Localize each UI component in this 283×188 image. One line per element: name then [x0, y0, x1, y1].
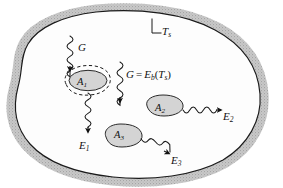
body-a2-label: A2: [155, 103, 165, 115]
a1-shape: [69, 70, 107, 90]
body-a3-label: A3: [114, 130, 124, 142]
incident-irradiation-label-left: G: [78, 42, 86, 53]
body-a1: [69, 70, 107, 90]
enclosure-boundary: [16, 11, 261, 179]
surface-temperature-label: Ts: [162, 26, 171, 39]
radiation-enclosure-figure: Ts G G=Eb(Ts) A1 A2 A3 E1 E2 E3: [0, 0, 283, 188]
irradiation-equation-label: G=Eb(Ts): [126, 69, 171, 82]
emission-e1-label: E1: [79, 140, 89, 153]
enclosure-outline-path: [16, 11, 261, 179]
emission-e3-label: E3: [171, 155, 181, 168]
body-a1-label: A1: [77, 77, 87, 89]
figure-canvas: [0, 0, 283, 188]
emission-e2-label: E2: [223, 111, 233, 124]
